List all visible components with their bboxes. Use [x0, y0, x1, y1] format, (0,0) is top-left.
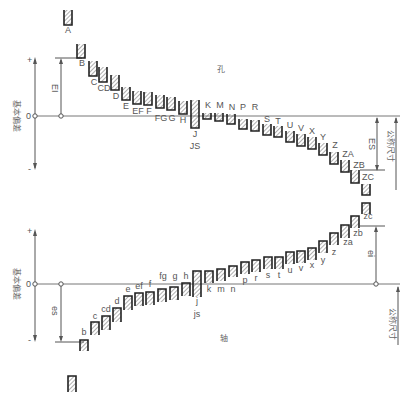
hole-f-label: F	[146, 106, 152, 116]
hole-v-label: V	[298, 123, 304, 133]
shaft-fg-box-hatch	[158, 289, 166, 302]
shaft-x-label: x	[310, 260, 315, 270]
shaft-b-label: b	[81, 327, 86, 337]
hole-x-label: X	[309, 126, 315, 136]
shaft-d-box-hatch	[113, 308, 121, 322]
shaft-p-label: p	[242, 275, 247, 285]
shaft-k-box-hatch	[205, 271, 213, 283]
hole-g-box-hatch	[167, 97, 175, 110]
hole-za-box-hatch	[341, 160, 349, 172]
hole-x-box-hatch	[308, 137, 316, 149]
shaft-cd-label: cd	[101, 304, 111, 314]
shaft-g-label: g	[172, 271, 177, 281]
ei-origin-circle	[374, 282, 378, 286]
hole-ef-box-hatch	[133, 91, 141, 104]
hole-j-box-hatch	[191, 100, 199, 128]
hole-cd-label: CD	[98, 83, 111, 93]
hole-fg-label: FG	[155, 113, 168, 123]
hole-r-label: R	[252, 102, 259, 112]
top-axis-down-arrow	[33, 163, 37, 170]
shaft-s-label: s	[266, 270, 271, 280]
hole-d-label: D	[113, 91, 120, 101]
shaft-zb-box-hatch	[351, 216, 359, 228]
hole-cd-box-hatch	[99, 67, 107, 82]
hole-h-label: H	[180, 115, 187, 125]
hole-z-label: Z	[332, 140, 338, 150]
shaft-e-label: e	[125, 284, 130, 294]
top-size-label: 公称尺寸	[386, 130, 396, 162]
hole-p-label: P	[240, 102, 246, 112]
bottom-size-arrow	[396, 286, 400, 292]
shaft-r-box-hatch	[252, 260, 260, 272]
es-arrow	[59, 336, 63, 342]
ei-origin-circle	[59, 114, 63, 118]
shaft-zc-label: zc	[364, 211, 374, 221]
shaft-d-label: d	[114, 296, 119, 306]
es-origin-circle	[59, 282, 63, 286]
shaft-j-label: j	[195, 296, 198, 306]
ei-arrow	[59, 58, 63, 64]
hole-k-box-hatch	[203, 113, 211, 119]
hole-m-box-hatch	[215, 113, 223, 121]
hole-r-box-hatch	[251, 120, 259, 131]
bottom-axis-label: 基本偏差	[12, 268, 22, 300]
top-minus-sign: -	[28, 164, 31, 174]
shaft-y-label: y	[321, 255, 326, 265]
ei-arrow	[374, 226, 378, 232]
top-es-label: ES	[367, 138, 377, 150]
top-plus-sign: +	[27, 55, 32, 65]
hole-y-box-hatch	[319, 143, 327, 155]
shaft-r-label: r	[255, 273, 258, 283]
shaft-z-box-hatch	[330, 233, 338, 245]
hole-b-label: B	[79, 58, 85, 68]
hole-s-box-hatch	[263, 124, 271, 135]
shaft-deviation-boxes: bccddeefffgghjjskmnprstuvxyzzazbzc	[68, 203, 373, 392]
hole-c-box-hatch	[89, 61, 97, 76]
shaft-x-box-hatch	[308, 248, 316, 260]
shaft-ef-box-hatch	[135, 293, 143, 306]
shaft-y-box-hatch	[319, 241, 327, 253]
hole-u-label: U	[287, 120, 294, 130]
hole-t-box-hatch	[274, 126, 282, 137]
hole-h-box-hatch	[179, 101, 187, 114]
shaft-p-box-hatch	[241, 262, 249, 274]
top-ei-label: EI	[50, 84, 60, 93]
shaft-u-box-hatch	[286, 252, 294, 264]
hole-g-label: G	[168, 113, 175, 123]
shaft-n-label: n	[230, 284, 235, 294]
hole-zc-box-hatch	[362, 184, 370, 195]
hole-s-label: S	[264, 114, 270, 124]
hole-ef-label: EF	[132, 106, 144, 116]
hole-n-box-hatch	[227, 114, 235, 124]
shaft-s-box-hatch	[264, 257, 272, 269]
shaft-n-box-hatch	[229, 266, 237, 277]
hole-fg-box-hatch	[156, 95, 164, 108]
hole-e-label: E	[123, 101, 129, 111]
shaft-f-box-hatch	[146, 292, 154, 305]
hole-zb-box-hatch	[351, 170, 359, 183]
hole-u-box-hatch	[286, 131, 294, 142]
bottom-origin-circle	[33, 282, 37, 286]
shaft-g-box-hatch	[170, 287, 178, 300]
hole-zb-label: ZB	[353, 160, 365, 170]
hole-k-label: K	[205, 100, 211, 110]
tolerance-diagram: ABCCDDEEFFFGGHJJSKMNPRSTUVXYZZAZBZC bccd…	[0, 0, 414, 399]
shaft-h-box-hatch	[182, 283, 190, 296]
es-arrow-up	[375, 117, 379, 123]
shaft-z-label: z	[332, 247, 337, 257]
hole-za-label: ZA	[342, 149, 354, 159]
top-origin-circle	[33, 114, 37, 118]
shaft-j-box-hatch	[193, 271, 201, 297]
hole-b-box-hatch	[77, 44, 85, 58]
hole-n-label: N	[229, 102, 236, 112]
shaft-za-label: za	[343, 237, 353, 247]
shaft-k-label: k	[207, 284, 212, 294]
shaft-ef-label: ef	[135, 281, 143, 291]
hole-t-label: T	[275, 116, 281, 126]
hole-a-box-hatch	[64, 10, 72, 25]
shaft-t-label: t	[278, 270, 281, 280]
bottom-axis-down-arrow	[33, 335, 37, 342]
top-axis-label: 基本偏差	[12, 100, 22, 132]
shaft-fg-label: fg	[159, 271, 167, 281]
bottom-axis-up-arrow	[33, 229, 37, 236]
